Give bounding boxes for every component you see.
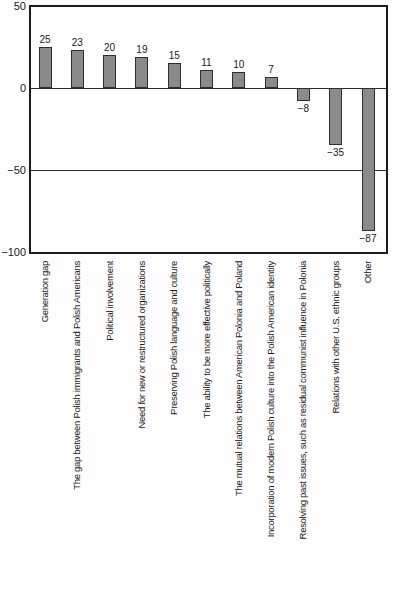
bar [329, 88, 342, 145]
category-label: Resolving past issues, such as residual … [297, 261, 309, 593]
bar [362, 88, 375, 231]
bar-value-label: 20 [104, 42, 115, 54]
bar [297, 88, 310, 101]
category-label: The mutual relations between American Po… [233, 261, 245, 593]
bar [200, 70, 213, 88]
category-label: Need for new or restructured organizatio… [136, 261, 148, 593]
bar-value-label: 19 [136, 44, 147, 56]
category-label: Incorporation of modern Polish culture i… [265, 261, 277, 593]
y-tick-label: 0 [0, 82, 26, 95]
bar [168, 63, 181, 88]
bar [265, 77, 278, 88]
category-label: The gap between Polish immigrants and Po… [71, 261, 83, 593]
category-label: Preserving Polish language and culture [168, 261, 180, 593]
bar [103, 55, 116, 88]
bar-value-label: 15 [169, 50, 180, 62]
category-label: Generation gap [39, 261, 51, 593]
bar [71, 50, 84, 88]
y-tick-label: 50 [0, 0, 26, 13]
y-tick-label: −100 [0, 246, 26, 259]
y-tick-label: −50 [0, 164, 26, 177]
bar-value-label: 7 [268, 64, 274, 76]
bar-value-label: −8 [298, 103, 309, 115]
category-label: Other [362, 261, 374, 593]
category-label: Political involvement [104, 261, 116, 593]
bar [135, 57, 148, 88]
bar-value-label: 23 [72, 37, 83, 49]
bar [39, 47, 52, 88]
gridline--50 [30, 170, 387, 171]
bar [232, 72, 245, 88]
bar-value-label: 10 [233, 59, 244, 71]
bar-value-label: −35 [327, 147, 344, 159]
bar-value-label: −87 [360, 233, 377, 245]
bar-value-label: 25 [39, 34, 50, 46]
bar-value-label: 11 [201, 57, 211, 69]
category-label: Relations with other U.S. ethnic groups [330, 261, 342, 593]
category-label: The ability to be more effective politic… [201, 261, 213, 593]
bar-chart: 500−50−10025Generation gap23The gap betw… [0, 0, 398, 594]
